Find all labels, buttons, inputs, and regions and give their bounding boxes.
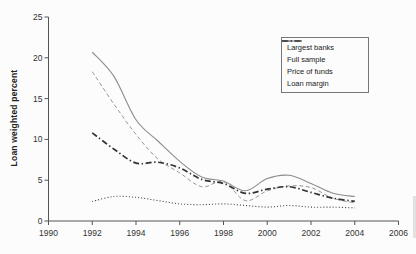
loan-rates-chart: 0510152025199019921994199619982000200220… [0, 0, 416, 254]
x-tick-label: 2000 [258, 228, 277, 238]
x-tick-label: 1990 [39, 228, 58, 238]
y-tick-label: 20 [33, 53, 43, 63]
x-tick-label: 2002 [302, 228, 321, 238]
y-tick-label: 10 [33, 134, 43, 144]
legend: Largest banks Full sample Price of funds… [281, 37, 369, 93]
x-tick-label: 1996 [170, 228, 189, 238]
series-line-loan-margin [92, 196, 355, 208]
legend-label: Full sample [287, 55, 325, 64]
y-tick-label: 5 [38, 175, 43, 185]
y-tick-label: 15 [33, 94, 43, 104]
legend-label: Loan margin [287, 79, 329, 88]
x-tick-label: 1994 [127, 228, 146, 238]
y-tick-label: 0 [38, 216, 43, 226]
y-axis-label: Loan weighted percent [9, 58, 19, 178]
x-tick-label: 1992 [83, 228, 102, 238]
legend-label: Price of funds [287, 67, 333, 76]
legend-item-loan-margin: Loan margin [287, 77, 364, 89]
dotted-line-icon [282, 38, 302, 44]
x-tick-label: 2006 [389, 228, 408, 238]
legend-item-price-of-funds: Price of funds [287, 65, 364, 77]
series-line-price-of-funds [92, 133, 355, 202]
x-tick-label: 1998 [214, 228, 233, 238]
x-tick-label: 2004 [345, 228, 364, 238]
legend-item-full-sample: Full sample [287, 53, 364, 65]
y-tick-label: 25 [33, 12, 43, 22]
